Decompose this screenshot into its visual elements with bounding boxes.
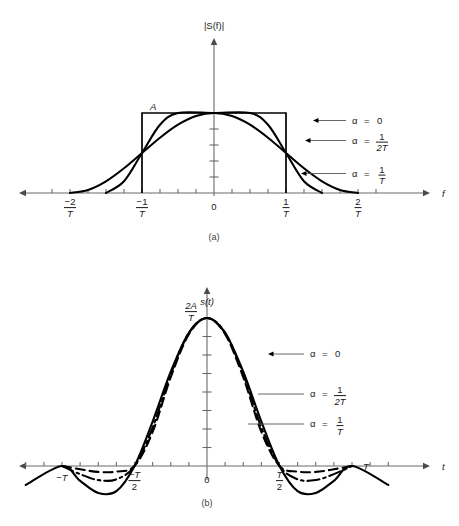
panel-b-annotation-0: α=0: [268, 348, 340, 359]
panel-b-alpha-value-2-numerator: 1: [337, 414, 342, 425]
panel-b-x-axis-label: t: [442, 461, 445, 472]
panel-a-alpha-symbol-0: α: [352, 115, 358, 126]
panel-a-annotation-arrow-0: [313, 118, 319, 123]
panel-a-equals-1: =: [364, 135, 370, 146]
panel-b-x-axis-arrow-right: [423, 463, 430, 470]
panel-b-x-tick-label-1-numerator: −T: [129, 469, 142, 480]
figure-canvas: A|S(f)|f0−2T−1T1T2Tα=0α=12Tα=1T(a)s(t)t2…: [0, 0, 459, 526]
panel-a-y-axis-arrow: [211, 38, 218, 45]
panel-b-x-tick-label-0: −T: [56, 472, 69, 483]
raised-cosine-figure: A|S(f)|f0−2T−1T1T2Tα=0α=12Tα=1T(a)s(t)t2…: [0, 0, 459, 526]
panel-a-annotation-arrow-1: [305, 138, 311, 143]
panel-a-annotation-0: α=0: [313, 115, 382, 126]
panel-a-x-tick-label-2-denominator: T: [283, 208, 290, 219]
panel-b-annotation-arrow-0: [268, 351, 274, 356]
panel-a-x-axis-label: f: [442, 188, 446, 199]
panel-a-annotation-1: α=12T: [305, 131, 389, 154]
panel-b-alpha-symbol-0: α: [310, 348, 316, 359]
panel-b-peak-label-numerator: 2A: [184, 300, 197, 311]
panel-a-equals-0: =: [364, 115, 370, 126]
panel-b-equals-1: =: [322, 388, 328, 399]
panel-a-alpha-value-2-denominator: T: [379, 175, 386, 186]
panel-b-peak-label-denominator: T: [188, 312, 195, 323]
panel-b-alpha-value-1-denominator: 2T: [333, 396, 346, 407]
panel-a-amplitude-label: A: [149, 101, 156, 112]
panel-a-alpha-value-0: 0: [377, 115, 382, 126]
panel-b-alpha-symbol-2: α: [310, 418, 316, 429]
panel-a-equals-2: =: [364, 168, 370, 179]
panel-a-alpha-symbol-2: α: [352, 168, 358, 179]
panel-a-x-tick-label-0-numerator: −2: [65, 196, 76, 207]
panel-b-equals-2: =: [322, 418, 328, 429]
panel-b-origin-label: 0: [204, 474, 209, 485]
panel-b-x-tick-label-1-denominator: 2: [132, 481, 137, 492]
panel-b-y-axis-label: s(t): [200, 296, 214, 307]
panel-a: A|S(f)|f0−2T−1T1T2Tα=0α=12Tα=1T(a): [19, 20, 446, 242]
panel-b-x-axis-arrow-left: [19, 463, 26, 470]
panel-b-equals-0: =: [322, 348, 328, 359]
panel-a-alpha-value-1-numerator: 1: [379, 131, 384, 142]
panel-b-annotation-1: α=12T: [258, 384, 347, 407]
panel-a-x-axis-arrow-left: [19, 190, 26, 197]
panel-a-y-axis-label: |S(f)|: [204, 20, 224, 31]
panel-a-alpha-value-2-numerator: 1: [379, 164, 384, 175]
panel-a-x-tick-label-1-numerator: −1: [137, 196, 148, 207]
panel-a-annotation-arrow-2: [301, 171, 307, 176]
panel-a-x-tick-label-2-numerator: 1: [283, 196, 288, 207]
panel-b: s(t)t2AT0−T−T2T2Tα=0α=12Tα=1T(b): [19, 287, 445, 508]
panel-a-alpha-symbol-1: α: [352, 135, 358, 146]
panel-b-x-tick-label-2-denominator: 2: [277, 481, 282, 492]
panel-b-caption: (b): [202, 498, 213, 508]
panel-a-x-tick-label-3-numerator: 2: [355, 196, 360, 207]
panel-a-origin-label: 0: [211, 201, 216, 212]
panel-b-alpha-value-1-numerator: 1: [337, 384, 342, 395]
panel-a-alpha-value-1-denominator: 2T: [375, 142, 388, 153]
panel-b-alpha-value-0: 0: [335, 348, 340, 359]
panel-b-y-axis-arrow: [204, 287, 211, 294]
panel-a-caption: (a): [209, 232, 220, 242]
panel-a-x-tick-label-0-denominator: T: [67, 208, 74, 219]
panel-a-x-axis-arrow-right: [423, 190, 430, 197]
panel-b-alpha-value-2-denominator: T: [337, 426, 344, 437]
panel-a-x-tick-label-1-denominator: T: [139, 208, 146, 219]
panel-a-x-tick-label-3-denominator: T: [355, 208, 362, 219]
panel-b-alpha-symbol-1: α: [310, 388, 316, 399]
